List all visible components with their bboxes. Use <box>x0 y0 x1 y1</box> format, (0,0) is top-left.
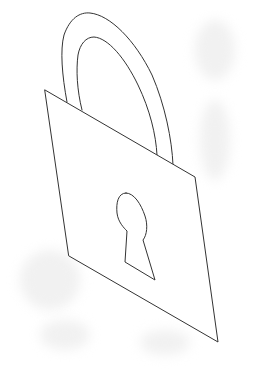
padlock-icon <box>0 0 265 369</box>
lock-body <box>45 90 218 342</box>
padlock-illustration <box>0 0 265 369</box>
